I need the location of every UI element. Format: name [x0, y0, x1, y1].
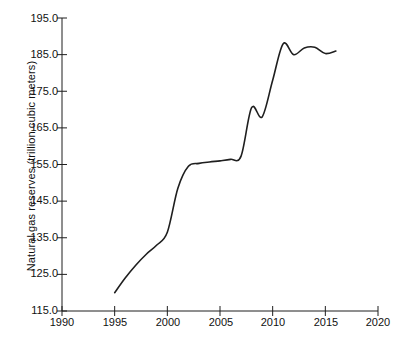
- x-tick-label: 1990: [39, 316, 85, 328]
- y-tick-label: 135.0: [14, 231, 58, 243]
- x-tick-label: 1995: [92, 316, 138, 328]
- y-tick-label: 165.0: [14, 121, 58, 133]
- data-series-line: [115, 43, 336, 293]
- y-tick-label: 195.0: [14, 12, 58, 24]
- y-tick-label: 115.0: [14, 304, 58, 316]
- chart-figure: Natural gas reserves (trillion cubic met…: [0, 0, 399, 341]
- x-tick-label: 2020: [355, 316, 399, 328]
- x-tick-label: 2000: [145, 316, 191, 328]
- y-tick-label: 185.0: [14, 48, 58, 60]
- caption-strip: [0, 332, 399, 341]
- plot-area: [0, 0, 399, 341]
- y-tick-label: 145.0: [14, 194, 58, 206]
- x-tick-label: 2005: [198, 316, 244, 328]
- y-tick-label: 155.0: [14, 158, 58, 170]
- x-tick-label: 2010: [250, 316, 296, 328]
- x-tick-label: 2015: [303, 316, 349, 328]
- y-tick-label: 125.0: [14, 267, 58, 279]
- y-tick-label: 175.0: [14, 85, 58, 97]
